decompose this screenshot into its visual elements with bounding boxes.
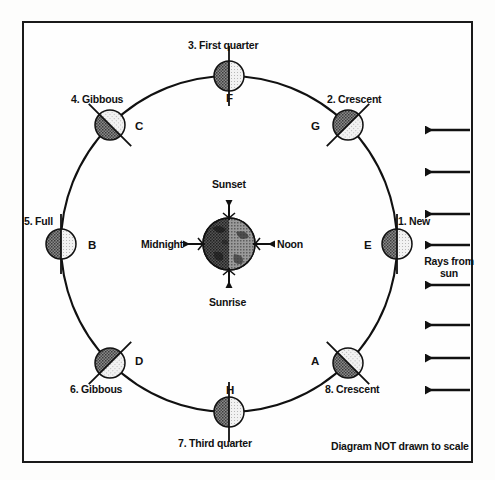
moon-phase-label-2: 2. Crescent (327, 93, 381, 105)
sun-rays-label-line2: sun (440, 267, 458, 279)
moon-phase-label-1: 1. New (398, 215, 430, 227)
moon-position-A (327, 338, 374, 385)
earth-direction-sunset: Sunset (212, 178, 246, 190)
moon-letter-label-H: H (226, 384, 234, 396)
moon-phase-label-8: 8. Crescent (325, 383, 379, 395)
moon-phase-label-3: 3. First quarter (188, 39, 258, 51)
moon-phase-label-7: 7. Third quarter (178, 437, 252, 449)
moon-phase-label-4: 4. Gibbous (71, 93, 123, 105)
earth-direction-midnight: Midnight (141, 238, 183, 250)
moon-phase-label-6: 6. Gibbous (70, 383, 122, 395)
sun-rays-label: Rays from sun (418, 256, 480, 279)
diagram-canvas: 1. NewE2. CrescentG3. First quarterF4. G… (0, 0, 495, 480)
moon-letter-label-C: C (135, 120, 143, 132)
moon-phase-label-5: 5. Full (24, 215, 53, 227)
moon-position-G (327, 104, 374, 151)
moon-letter-label-G: G (311, 120, 320, 132)
moon-letter-label-E: E (364, 239, 371, 251)
moon-letter-label-B: B (88, 239, 96, 251)
earth-direction-noon: Noon (277, 238, 303, 250)
moon-phase-diagram (0, 0, 495, 480)
moon-letter-label-D: D (135, 355, 143, 367)
sun-rays-label-line1: Rays from (424, 255, 474, 267)
moon-letter-label-F: F (226, 92, 233, 104)
moon-position-C (89, 100, 136, 147)
moon-position-D (89, 342, 136, 389)
moon-letter-label-A: A (311, 355, 319, 367)
earth (183, 200, 275, 288)
earth-direction-sunrise: Sunrise (209, 296, 246, 308)
footer-note: Diagram NOT drawn to scale (331, 440, 469, 452)
